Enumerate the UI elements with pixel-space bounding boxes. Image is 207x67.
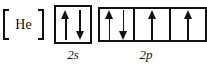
arrow-stem (79, 10, 81, 33)
electron-pair (56, 7, 90, 42)
noble-gas-core: He (3, 9, 44, 40)
subshell-2p-boxes (98, 7, 207, 42)
electron-single (171, 9, 205, 40)
orbital-box (170, 7, 207, 42)
orbital-box (54, 5, 92, 44)
spin-up-arrow-icon (184, 10, 193, 40)
orbital-box (134, 7, 170, 42)
arrow-stem (109, 17, 111, 40)
arrowhead (76, 31, 84, 40)
subshell-label-2s: 2s (53, 47, 93, 63)
spin-down-arrow-icon (119, 10, 128, 40)
spin-up-arrow-icon (148, 10, 157, 40)
spin-up-arrow-icon (61, 10, 70, 40)
spin-up-arrow-icon (105, 10, 114, 40)
spin-down-arrow-icon (76, 10, 85, 40)
arrow-stem (187, 17, 189, 40)
bracket-close-icon (38, 9, 44, 40)
orbital-diagram: He (0, 0, 207, 67)
electron-single (135, 9, 169, 40)
subshell-2s-boxes (54, 5, 92, 44)
arrowhead (119, 31, 127, 40)
orbital-box (98, 7, 134, 42)
arrow-stem (151, 17, 153, 40)
arrow-stem (65, 17, 67, 40)
electron-pair (100, 9, 133, 40)
subshell-label-2p: 2p (118, 47, 174, 63)
arrow-stem (123, 10, 125, 33)
